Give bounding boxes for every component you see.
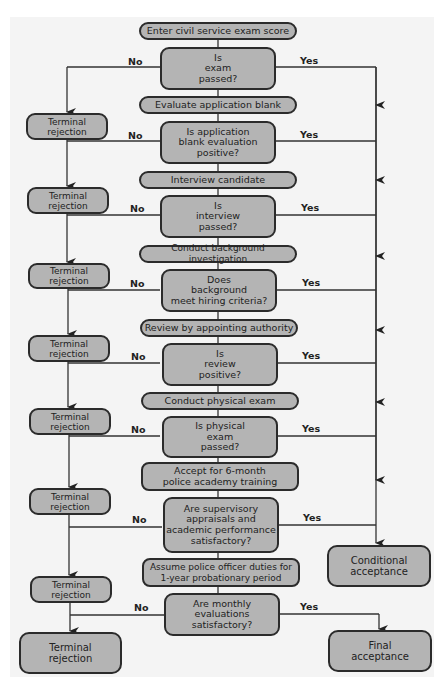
decision-exam-passed: Is exam passed? [160, 47, 276, 90]
yes-label: Yes [303, 512, 321, 523]
step-academy-training: Accept for 6-month police academy traini… [141, 462, 299, 491]
yes-label: Yes [302, 423, 320, 434]
decision-application-positive: Is application blank evaluation positive… [160, 121, 276, 164]
no-label: No [131, 351, 145, 362]
no-label: No [132, 514, 146, 525]
no-label: No [128, 56, 142, 67]
yes-label: Yes [301, 202, 319, 213]
yes-label: Yes [300, 129, 318, 140]
terminal-rejection: Terminal rejection [29, 408, 111, 435]
final-acceptance: Final acceptance [328, 630, 432, 672]
yes-label: Yes [300, 601, 318, 612]
no-label: No [130, 278, 144, 289]
terminal-rejection: Terminal rejection [30, 576, 112, 603]
yes-label: Yes [302, 277, 320, 288]
terminal-rejection: Terminal rejection [27, 187, 109, 214]
decision-review-positive: Is review positive? [162, 343, 278, 386]
step-physical-exam: Conduct physical exam [141, 392, 299, 410]
decision-physical-passed: Is physical exam passed? [162, 416, 278, 458]
terminal-rejection-final: Terminal rejection [19, 632, 122, 674]
no-label: No [128, 130, 142, 141]
terminal-rejection: Terminal rejection [26, 113, 108, 140]
conditional-acceptance: Conditional acceptance [327, 545, 431, 587]
start-step: Enter civil service exam score [139, 22, 297, 40]
yes-label: Yes [302, 350, 320, 361]
step-review-authority: Review by appointing authority [140, 319, 298, 337]
decision-background-criteria: Does background meet hiring criteria? [161, 269, 277, 312]
no-label: No [131, 424, 145, 435]
decision-interview-passed: Is interview passed? [160, 195, 276, 238]
step-evaluate-application: Evaluate application blank [139, 96, 297, 114]
step-probationary-period: Assume police officer duties for 1-year … [142, 558, 300, 587]
step-background-investigation: Conduct background investigation [139, 245, 297, 263]
no-label: No [134, 602, 148, 613]
step-interview-candidate: Interview candidate [139, 171, 297, 189]
yes-label: Yes [300, 55, 318, 66]
terminal-rejection: Terminal rejection [28, 335, 110, 362]
no-label: No [130, 203, 144, 214]
terminal-rejection: Terminal rejection [29, 488, 111, 515]
decision-supervisory-appraisals: Are supervisory appraisals and academic … [163, 497, 279, 553]
terminal-rejection: Terminal rejection [28, 263, 110, 289]
decision-monthly-evaluations: Are monthly evaluations satisfactory? [164, 593, 280, 636]
